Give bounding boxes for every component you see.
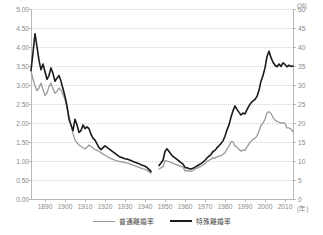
series-lines-svg <box>31 9 293 199</box>
x-axis-tick <box>185 199 186 202</box>
legend-item-futsu-rikonritsu: 普通離婚率 <box>93 216 154 226</box>
legend-item-tokushu-rikonritsu: 特殊離婚率 <box>170 216 231 226</box>
x-axis-tick-label: 1940 <box>138 203 153 210</box>
x-axis-line <box>31 199 294 200</box>
y-axis-right-unit-label: (%) <box>297 2 307 9</box>
x-axis-tick <box>245 199 246 202</box>
x-axis-tick-label: 1890 <box>38 203 53 210</box>
x-axis-unit-label: (年) <box>297 203 308 213</box>
x-axis-tick-label: 1990 <box>238 203 253 210</box>
x-axis-tick <box>45 199 46 202</box>
legend-line-swatch-icon <box>93 221 115 222</box>
divorce-rate-chart: 0.000.501.001.502.002.503.003.504.004.50… <box>0 0 323 235</box>
legend-label-tokushu-rikonritsu: 特殊離婚率 <box>196 216 231 226</box>
x-axis-tick-label: 1980 <box>218 203 233 210</box>
x-axis-tick <box>65 199 66 202</box>
x-axis-tick <box>265 199 266 202</box>
x-axis-tick-label: 1960 <box>178 203 193 210</box>
x-axis-tick <box>85 199 86 202</box>
x-axis-tick <box>285 199 286 202</box>
x-axis-tick-label: 1900 <box>58 203 73 210</box>
y-axis-right-line <box>293 9 294 200</box>
x-axis-tick-label: 1950 <box>158 203 173 210</box>
x-axis-tick-label: 1910 <box>78 203 93 210</box>
x-axis-tick-label: 1920 <box>98 203 113 210</box>
x-axis-tick-label: 1930 <box>118 203 133 210</box>
x-axis-tick-label: 2010 <box>278 203 293 210</box>
legend-label-futsu-rikonritsu: 普通離婚率 <box>119 216 154 226</box>
x-axis-tick <box>105 199 106 202</box>
series-tokushu-rikonritsu <box>31 34 293 172</box>
x-axis-tick <box>225 199 226 202</box>
x-axis-tick <box>145 199 146 202</box>
x-axis-tick-label: 2000 <box>258 203 273 210</box>
legend-line-swatch-icon <box>170 220 192 222</box>
chart-legend: 普通離婚率 特殊離婚率 <box>0 216 323 226</box>
x-axis-tick-label: 1970 <box>198 203 213 210</box>
x-axis-tick <box>125 199 126 202</box>
x-axis-tick <box>205 199 206 202</box>
x-axis-tick <box>165 199 166 202</box>
line-tokushu-rikonritsu <box>31 34 293 172</box>
